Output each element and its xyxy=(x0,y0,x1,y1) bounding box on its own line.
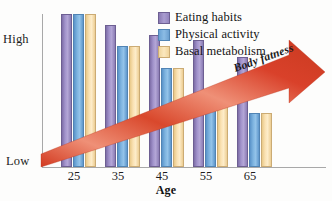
legend-item-basal-metabolism: Basal metabolism xyxy=(158,44,266,59)
bar-basal-metabolism-age-65 xyxy=(261,113,272,167)
bar-physical-activity-age-45 xyxy=(161,68,172,167)
legend: Eating habits Physical activity Basal me… xyxy=(158,10,266,59)
legend-swatch-physical-activity xyxy=(158,29,170,41)
bar-physical-activity-age-35 xyxy=(117,46,128,167)
bar-eating-habits-age-55 xyxy=(193,40,204,167)
bar-basal-metabolism-age-45 xyxy=(173,68,184,167)
bar-physical-activity-age-55 xyxy=(205,90,216,167)
legend-label-physical-activity: Physical activity xyxy=(175,27,260,42)
bar-eating-habits-age-25 xyxy=(61,14,72,167)
bar-eating-habits-age-65 xyxy=(237,57,248,167)
bar-basal-metabolism-age-55 xyxy=(217,90,228,167)
legend-item-eating-habits: Eating habits xyxy=(158,10,266,25)
legend-label-basal-metabolism: Basal metabolism xyxy=(175,44,266,59)
x-axis-tick-65: 65 xyxy=(233,169,267,184)
x-axis-title: Age xyxy=(0,183,332,198)
legend-label-eating-habits: Eating habits xyxy=(175,10,242,25)
legend-item-physical-activity: Physical activity xyxy=(158,27,266,42)
bar-physical-activity-age-25 xyxy=(73,14,84,167)
bar-eating-habits-age-35 xyxy=(105,25,116,167)
x-axis-tick-35: 35 xyxy=(101,169,135,184)
bar-basal-metabolism-age-35 xyxy=(129,46,140,167)
bar-basal-metabolism-age-25 xyxy=(85,14,96,167)
legend-swatch-eating-habits xyxy=(158,12,170,24)
x-axis-tick-55: 55 xyxy=(189,169,223,184)
x-axis-tick-45: 45 xyxy=(145,169,179,184)
figure-bar-chart-body-fatness: High Low Body fatness 25 35 45 55 65 Age… xyxy=(0,0,332,201)
y-axis-tick-low: Low xyxy=(6,154,30,169)
bar-physical-activity-age-65 xyxy=(249,113,260,167)
x-axis-tick-25: 25 xyxy=(57,169,91,184)
legend-swatch-basal-metabolism xyxy=(158,46,170,58)
x-axis-line xyxy=(42,167,326,168)
y-axis-tick-high: High xyxy=(3,32,29,47)
